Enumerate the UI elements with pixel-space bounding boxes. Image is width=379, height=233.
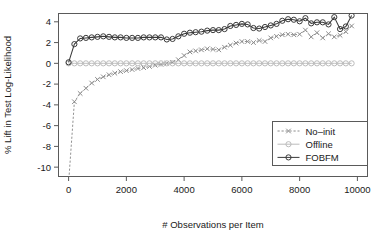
y-tick-label: -2	[43, 78, 51, 89]
data-point-marker	[309, 35, 314, 40]
y-tick-label: -6	[43, 120, 51, 131]
data-point-marker	[107, 72, 112, 77]
data-point-marker	[251, 40, 256, 45]
x-axis-title: # Observations per Item	[162, 219, 263, 230]
data-point-marker	[344, 29, 349, 34]
legend[interactable]: No–initOfflineFOBFM	[273, 122, 368, 166]
legend-label: No–init	[306, 126, 336, 137]
data-point-marker	[228, 43, 233, 48]
data-point-marker	[84, 86, 89, 91]
line-chart: 420-2-4-6-8-100200040006000800010000# Ob…	[0, 0, 379, 233]
data-point-marker	[349, 24, 354, 29]
y-tick-label: 4	[46, 16, 51, 27]
x-tick-label: 6000	[231, 184, 252, 195]
x-tick-label: 2000	[116, 184, 137, 195]
data-point-marker	[205, 46, 210, 51]
x-tick-label: 4000	[174, 184, 195, 195]
y-tick-label: 0	[46, 58, 51, 69]
y-tick-label: -8	[43, 141, 51, 152]
data-point-marker	[315, 30, 320, 35]
data-point-marker	[89, 81, 94, 86]
data-point-marker	[320, 36, 325, 41]
series-offline	[66, 61, 354, 66]
data-point-marker	[78, 91, 83, 96]
data-point-marker	[72, 99, 77, 104]
data-point-marker	[182, 53, 187, 58]
data-point-marker	[303, 28, 308, 33]
legend-label: FOBFM	[306, 152, 339, 163]
y-tick-label: -4	[43, 99, 51, 110]
x-axis: 0200040006000800010000	[66, 177, 371, 195]
y-tick-label: -10	[37, 162, 51, 173]
x-tick-label: 8000	[289, 184, 310, 195]
data-point-marker	[263, 39, 268, 44]
data-point-marker	[286, 32, 291, 37]
series-fobfm	[66, 13, 354, 65]
data-point-marker	[222, 45, 227, 50]
data-point-marker	[216, 48, 221, 53]
data-point-marker	[240, 39, 245, 44]
y-axis: 420-2-4-6-8-10	[37, 16, 58, 172]
chart-figure: 420-2-4-6-8-100200040006000800010000# Ob…	[0, 0, 379, 233]
y-tick-label: 2	[46, 37, 51, 48]
data-point-marker	[95, 77, 100, 82]
data-point-marker	[332, 35, 337, 40]
data-point-marker	[297, 32, 302, 37]
data-point-marker	[193, 49, 198, 54]
y-axis-title: % Lift in Test Log-Likelihood	[2, 36, 13, 154]
legend-label: Offline	[306, 139, 333, 150]
x-tick-label: 0	[66, 184, 71, 195]
data-point-marker	[101, 75, 106, 80]
data-point-marker	[274, 34, 279, 39]
x-tick-label: 10000	[344, 184, 370, 195]
data-point-marker	[326, 31, 331, 36]
